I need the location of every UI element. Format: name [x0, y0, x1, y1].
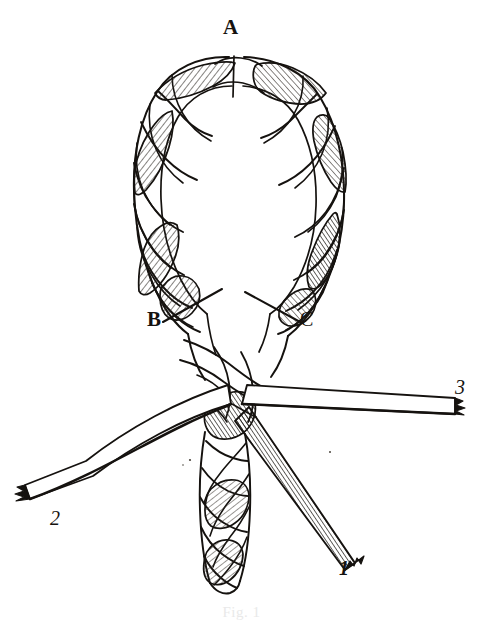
strand-1: [235, 407, 364, 570]
strand-2: [15, 385, 231, 501]
label-c: C: [300, 309, 313, 329]
label-strand-2: 2: [50, 508, 60, 528]
engraving-specks: [182, 451, 331, 466]
figure-root: A B C 1 2 3 Fig. 1: [0, 0, 483, 629]
label-b: B: [147, 309, 161, 330]
loop-shaded-segments: [134, 62, 346, 326]
tick-mark-a: [233, 56, 234, 97]
rope-splice-illustration: [0, 0, 483, 629]
label-strand-1: 1: [339, 558, 349, 578]
figure-caption: Fig. 1: [0, 604, 483, 629]
label-a: A: [223, 17, 238, 38]
label-strand-3: 3: [455, 377, 465, 397]
strand-3: [242, 385, 465, 415]
